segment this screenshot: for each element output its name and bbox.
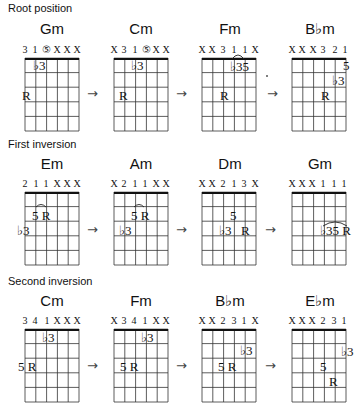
note-fifth: 5 bbox=[131, 208, 138, 223]
arrow-icon: → bbox=[265, 358, 276, 373]
fingering-string: X bbox=[297, 315, 307, 326]
fingering-string: 3 bbox=[329, 315, 339, 326]
note-flat-third: ♭3 bbox=[42, 331, 55, 344]
fretboard-grid bbox=[25, 192, 79, 265]
note-root: R bbox=[119, 89, 128, 102]
fingering-string: 1 bbox=[42, 315, 52, 326]
fingering-string: X bbox=[207, 315, 217, 326]
fingering-string: X bbox=[197, 315, 207, 326]
fingering-string: 3 bbox=[229, 315, 239, 326]
fingering-string: X bbox=[161, 315, 171, 326]
note-root: R bbox=[28, 359, 37, 374]
arrow-icon: → bbox=[265, 222, 276, 237]
fingering-string: X bbox=[287, 315, 297, 326]
fingering-string: 3 bbox=[20, 315, 30, 326]
fingering-string: X bbox=[151, 315, 161, 326]
fingering-string: X bbox=[52, 178, 62, 189]
note-root: R bbox=[342, 223, 351, 238]
note-root: R bbox=[141, 208, 150, 223]
note-flat-third: ♭3 bbox=[341, 345, 354, 358]
fingering-string: ⑤ bbox=[41, 44, 51, 55]
note-flat-third: ♭3 bbox=[33, 59, 46, 72]
fingering-string: X bbox=[250, 178, 260, 189]
fretboard-grid bbox=[292, 329, 346, 402]
fingering-string: 4 bbox=[129, 315, 139, 326]
arrow-icon: → bbox=[176, 222, 187, 237]
arrow-icon: → bbox=[87, 86, 98, 101]
fingering-string: ⑤ bbox=[141, 44, 151, 55]
note-root: R bbox=[22, 89, 31, 102]
fingering-string: X bbox=[287, 44, 297, 55]
fingering-string: X bbox=[62, 178, 72, 189]
fingering-string: X bbox=[197, 178, 207, 189]
fingering-string: X bbox=[72, 44, 82, 55]
chord-name: Gm bbox=[12, 20, 92, 37]
fingering-string: 1 bbox=[41, 178, 51, 189]
fingering-string: X bbox=[250, 44, 260, 55]
fingering-string: 1 bbox=[140, 315, 150, 326]
note-flat-third: ♭3 bbox=[219, 224, 232, 237]
fingering-string: X bbox=[308, 44, 318, 55]
fingering-string: X bbox=[250, 315, 260, 326]
fingering-string: 3 bbox=[119, 315, 129, 326]
note-flat-third: ♭3 bbox=[131, 59, 144, 72]
fingering-string: X bbox=[287, 178, 297, 189]
section-title-root-position: Root position bbox=[8, 2, 72, 14]
fingering-string: X bbox=[307, 178, 317, 189]
fingering-string: 3 bbox=[218, 44, 228, 55]
fingering-string: X bbox=[161, 44, 171, 55]
fingering-string: X bbox=[62, 315, 72, 326]
fingering-string: 1 bbox=[239, 315, 249, 326]
note-root: R bbox=[42, 208, 51, 223]
chord-name: Am bbox=[101, 155, 181, 172]
arrow-icon: → bbox=[87, 358, 98, 373]
fingering-string: 3 bbox=[119, 44, 129, 55]
fingering-string: 1 bbox=[339, 315, 349, 326]
fingering-string: X bbox=[197, 44, 207, 55]
fingering-string: X bbox=[297, 44, 307, 55]
note-flat-third: ♭3 bbox=[141, 331, 154, 344]
fingering-string: X bbox=[161, 178, 171, 189]
note-fifth: 5 bbox=[218, 359, 225, 374]
arrow-icon: → bbox=[87, 222, 98, 237]
arrow-icon: → bbox=[176, 358, 187, 373]
fingering-string: 3 bbox=[20, 44, 30, 55]
fingering-string: 2 bbox=[20, 178, 30, 189]
chord-name: Dm bbox=[190, 155, 270, 172]
chord-name: Gm bbox=[280, 155, 360, 172]
note-root: R bbox=[329, 375, 338, 388]
arrow-icon: → bbox=[267, 86, 278, 101]
fingering-string: 2 bbox=[318, 315, 328, 326]
note-root: R bbox=[241, 224, 250, 237]
fingering-string: 1 bbox=[30, 44, 40, 55]
note-fifth: 5 bbox=[320, 360, 327, 373]
chord-name: Em bbox=[12, 155, 92, 172]
note-fifth: 5 bbox=[343, 59, 350, 72]
chord-name: B♭m bbox=[280, 20, 360, 38]
fingering-string: X bbox=[109, 178, 119, 189]
note-flat-third: ♭3 bbox=[240, 344, 253, 357]
note-flat-third-fifth-root: ♭35 R bbox=[320, 224, 351, 237]
chord-name: Fm bbox=[190, 20, 270, 37]
fingering-string: X bbox=[207, 178, 217, 189]
fingering-string: 1 bbox=[339, 178, 349, 189]
fingering-string: X bbox=[109, 44, 119, 55]
fingering-string: 1 bbox=[329, 178, 339, 189]
fingering-string: X bbox=[297, 178, 307, 189]
section-title-second-inversion: Second inversion bbox=[8, 275, 92, 287]
note-flat-third: ♭3 bbox=[17, 224, 30, 237]
fingering-string: 1 bbox=[31, 178, 41, 189]
fingering-string: 2 bbox=[218, 315, 228, 326]
chord-name: Cm bbox=[12, 292, 92, 309]
fingering-string: 1 bbox=[130, 178, 140, 189]
note-flat-third-fifth: ♭35 bbox=[230, 60, 249, 73]
fingering-string: X bbox=[52, 44, 62, 55]
fingering-string: X bbox=[52, 315, 62, 326]
fingering-string: 3 bbox=[239, 178, 249, 189]
fingering-string: X bbox=[307, 315, 317, 326]
note-fifth-root: 5 R bbox=[32, 209, 50, 222]
fingering-string: X bbox=[72, 315, 82, 326]
note-fifth-root: 5 R bbox=[18, 360, 36, 373]
note-fifth-root: 5 R bbox=[218, 360, 236, 373]
note-root: R bbox=[321, 89, 330, 102]
